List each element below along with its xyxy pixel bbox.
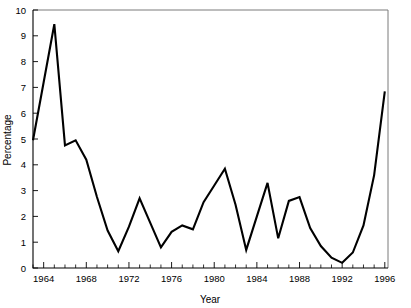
- x-axis-title: Year: [200, 294, 221, 305]
- data-series-line: [33, 24, 385, 263]
- x-tick-label: 1980: [204, 273, 225, 284]
- y-tick-label: 0: [21, 263, 26, 274]
- y-tick-label: 2: [21, 211, 26, 222]
- y-axis-tick-labels: 012345678910: [15, 5, 26, 274]
- x-tick-label: 1968: [76, 273, 97, 284]
- x-tick-label: 1972: [118, 273, 139, 284]
- y-tick-label: 3: [21, 185, 26, 196]
- x-axis-tick-labels: 196419681972197619801984198819921996: [33, 273, 395, 284]
- frame-top-right: [33, 10, 388, 268]
- x-tick-label: 1964: [33, 273, 54, 284]
- y-tick-label: 8: [21, 56, 26, 67]
- y-tick-label: 4: [21, 159, 26, 170]
- plot-frame: [33, 10, 388, 268]
- x-axis-major-ticks: [44, 262, 385, 268]
- line-chart: 012345678910 196419681972197619801984198…: [0, 0, 411, 308]
- x-tick-label: 1992: [332, 273, 353, 284]
- y-axis-title: Percentage: [2, 114, 13, 166]
- y-tick-label: 1: [21, 237, 26, 248]
- x-tick-label: 1984: [246, 273, 267, 284]
- y-tick-label: 7: [21, 82, 26, 93]
- y-tick-label: 5: [21, 134, 26, 145]
- x-tick-label: 1976: [161, 273, 182, 284]
- frame-left-bottom: [33, 10, 388, 268]
- y-tick-label: 6: [21, 108, 26, 119]
- x-tick-label: 1988: [289, 273, 310, 284]
- y-tick-label: 9: [21, 30, 26, 41]
- chart-svg: 012345678910 196419681972197619801984198…: [0, 0, 411, 308]
- y-tick-label: 10: [15, 5, 26, 16]
- x-tick-label: 1996: [374, 273, 395, 284]
